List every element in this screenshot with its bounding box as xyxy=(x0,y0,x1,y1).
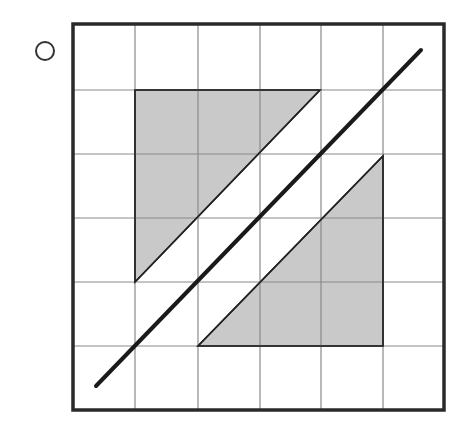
grid-diagram xyxy=(0,0,458,424)
option-radio-icon[interactable] xyxy=(36,42,54,60)
